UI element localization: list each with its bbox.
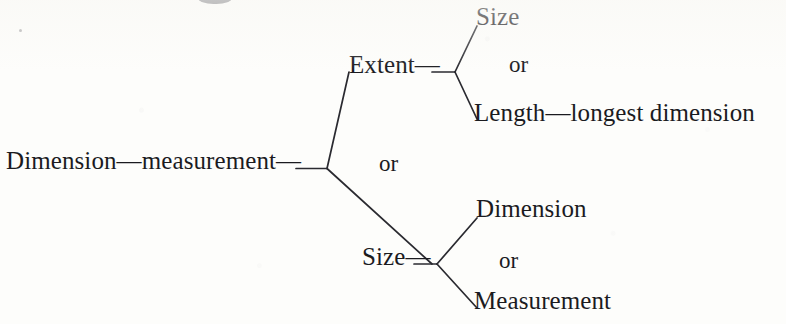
fork-extent-upper-line — [455, 26, 477, 72]
fork-root-upper-line — [327, 72, 349, 169]
branch-node-extent-label: Extent— — [349, 52, 440, 77]
extent-or-separator: or — [509, 53, 528, 76]
leaf-node-dimension-label: Dimension — [476, 196, 587, 221]
branch-node-size-label: Size— — [362, 244, 431, 269]
size-or-separator: or — [499, 249, 518, 272]
leaf-node-measurement-label: Measurement — [474, 288, 611, 313]
fork-size-lower-line — [437, 264, 477, 308]
root-node-label: Dimension—measurement— — [6, 148, 301, 173]
tree-diagram: Dimension—measurement— Extent— Size— Siz… — [0, 0, 786, 324]
root-or-separator: or — [379, 152, 398, 175]
leaf-node-length-label: Length—longest dimension — [474, 100, 755, 125]
fork-size-upper-line — [437, 218, 477, 264]
leaf-node-size-label: Size — [476, 4, 519, 29]
